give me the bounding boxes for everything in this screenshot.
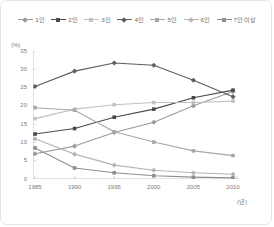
- legend-label: 4인: [134, 15, 143, 24]
- data-point: [152, 107, 156, 111]
- y-tick-label: 15: [13, 121, 27, 127]
- series-line: [35, 63, 233, 97]
- y-tick-label: 25: [13, 84, 27, 90]
- x-tick-label: 2010: [216, 184, 250, 190]
- legend-label: 1인: [35, 15, 44, 24]
- y-tick-label: 0: [13, 176, 27, 182]
- series-1인: [33, 89, 236, 156]
- series-4인: [33, 61, 236, 100]
- legend-item-2인[interactable]: 2인: [51, 15, 77, 24]
- data-point: [112, 115, 116, 119]
- series-7인-이상: [33, 146, 235, 179]
- y-tick-label: 20: [13, 102, 27, 108]
- data-point: [231, 99, 235, 103]
- line-chart-svg: [33, 51, 239, 179]
- data-point: [191, 78, 196, 83]
- data-point: [192, 96, 196, 100]
- data-point: [33, 146, 37, 150]
- data-point: [33, 84, 38, 89]
- series-line: [35, 139, 233, 174]
- data-point: [151, 120, 156, 125]
- data-point: [33, 151, 38, 156]
- x-tick-label: 1990: [58, 184, 92, 190]
- x-tick-label: 2005: [176, 184, 210, 190]
- y-tick-label: 5: [13, 157, 27, 163]
- series-line: [35, 92, 233, 154]
- data-point: [192, 175, 196, 179]
- data-point: [72, 69, 77, 74]
- data-point: [73, 108, 77, 112]
- data-point: [231, 88, 235, 92]
- data-point: [112, 163, 117, 168]
- x-tick-label: 1985: [18, 184, 52, 190]
- data-point: [230, 172, 235, 177]
- legend-label: 7인 이상: [234, 15, 256, 24]
- data-point: [112, 171, 116, 175]
- legend-item-1인[interactable]: 1인: [18, 15, 44, 24]
- data-point: [73, 166, 77, 170]
- legend-marker-icon: [117, 15, 132, 24]
- data-point: [152, 174, 156, 178]
- data-point: [72, 152, 77, 157]
- data-point: [33, 117, 37, 121]
- data-point: [33, 132, 37, 136]
- legend-label: 5인: [167, 15, 176, 24]
- data-point: [192, 101, 196, 105]
- data-point: [191, 170, 196, 175]
- data-point: [112, 61, 117, 66]
- legend-marker-icon: [18, 15, 33, 24]
- legend-marker-icon: [84, 15, 99, 24]
- legend-item-6인[interactable]: 6인: [184, 15, 210, 24]
- chart-legend: 1인2인3인4인5인6인7인 이상: [1, 15, 272, 24]
- legend-item-7인-이상[interactable]: 7인 이상: [217, 15, 256, 24]
- legend-marker-icon: [217, 15, 232, 24]
- data-point: [151, 63, 156, 68]
- legend-item-5인[interactable]: 5인: [150, 15, 176, 24]
- data-point: [72, 144, 77, 149]
- x-axis-unit-label: (년): [237, 197, 247, 206]
- legend-marker-icon: [184, 15, 199, 24]
- x-tick-label: 2000: [137, 184, 171, 190]
- data-point: [192, 149, 196, 153]
- data-point: [151, 168, 156, 173]
- data-point: [33, 136, 38, 141]
- y-tick-label: 35: [13, 48, 27, 54]
- data-point: [112, 103, 116, 107]
- legend-item-3인[interactable]: 3인: [84, 15, 110, 24]
- data-point: [231, 176, 235, 179]
- data-point: [112, 130, 116, 134]
- data-point: [73, 127, 77, 131]
- x-tick-label: 1995: [97, 184, 131, 190]
- y-tick-label: 10: [13, 139, 27, 145]
- series-6인: [33, 136, 236, 177]
- y-tick-label: 30: [13, 66, 27, 72]
- legend-label: 2인: [68, 15, 77, 24]
- chart-container: 1인2인3인4인5인6인7인 이상 (%) (년) 05101520253035…: [0, 0, 272, 225]
- data-point: [231, 154, 235, 158]
- legend-item-4인[interactable]: 4인: [117, 15, 143, 24]
- data-point: [152, 140, 156, 144]
- legend-marker-icon: [150, 15, 165, 24]
- data-point: [33, 106, 37, 110]
- legend-marker-icon: [51, 15, 66, 24]
- plot-area: [33, 51, 239, 179]
- data-point: [230, 94, 235, 99]
- legend-label: 6인: [201, 15, 210, 24]
- legend-label: 3인: [101, 15, 110, 24]
- data-point: [152, 101, 156, 105]
